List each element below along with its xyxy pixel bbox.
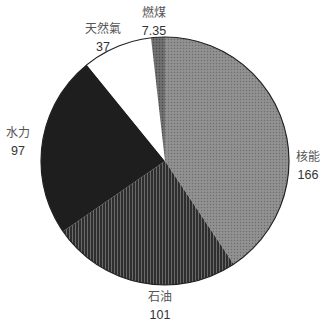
slice-label: 石油 bbox=[148, 290, 172, 304]
slice-label: 核能 bbox=[296, 150, 320, 164]
slice-value-label: 97 bbox=[11, 144, 25, 158]
slice-value-label: 166 bbox=[298, 168, 319, 182]
slice-label: 水力 bbox=[6, 126, 30, 140]
slice-value-label: 7.35 bbox=[142, 24, 166, 38]
slice-label: 天然氣 bbox=[85, 21, 121, 36]
slice-value-label: 101 bbox=[150, 308, 171, 322]
slice-label: 燃煤 bbox=[142, 5, 166, 20]
pie-chart: 核能166石油101水力97天然氣37燃煤7.35 bbox=[0, 0, 328, 325]
slice-value-label: 37 bbox=[96, 40, 110, 54]
